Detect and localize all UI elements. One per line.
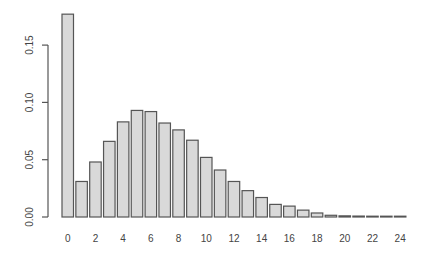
x-tick-label: 14 bbox=[256, 233, 268, 244]
x-tick-label: 8 bbox=[176, 233, 182, 244]
bar-24 bbox=[394, 216, 406, 217]
x-tick-label: 16 bbox=[284, 233, 296, 244]
x-tick-label: 0 bbox=[65, 233, 71, 244]
bar-19 bbox=[325, 215, 337, 217]
bar-16 bbox=[284, 206, 296, 217]
x-tick-label: 2 bbox=[93, 233, 99, 244]
bar-10 bbox=[201, 157, 213, 217]
bar-5 bbox=[131, 110, 143, 217]
bar-22 bbox=[367, 216, 379, 217]
chart-canvas: 0.000.050.100.15 024681012141618202224 bbox=[0, 0, 429, 254]
bar-9 bbox=[187, 140, 199, 217]
bar-3 bbox=[104, 141, 116, 217]
bar-1 bbox=[76, 181, 88, 217]
x-tick-label: 20 bbox=[339, 233, 351, 244]
bar-12 bbox=[228, 181, 240, 217]
bar-13 bbox=[242, 191, 254, 217]
y-axis: 0.000.050.100.15 bbox=[24, 35, 48, 227]
y-tick-label: 0.05 bbox=[24, 150, 35, 170]
y-tick-label: 0.15 bbox=[24, 35, 35, 55]
bar-chart: 0.000.050.100.15 024681012141618202224 bbox=[0, 0, 429, 254]
x-tick-label: 10 bbox=[201, 233, 213, 244]
x-tick-label: 22 bbox=[367, 233, 379, 244]
x-tick-label: 24 bbox=[395, 233, 407, 244]
bar-14 bbox=[256, 198, 268, 217]
bar-6 bbox=[145, 112, 157, 217]
bar-7 bbox=[159, 123, 171, 217]
bar-11 bbox=[214, 170, 226, 217]
x-tick-label: 6 bbox=[148, 233, 154, 244]
bar-2 bbox=[90, 162, 102, 217]
bar-18 bbox=[311, 213, 323, 217]
bar-15 bbox=[270, 204, 282, 217]
x-tick-label: 12 bbox=[228, 233, 240, 244]
x-axis-labels: 024681012141618202224 bbox=[65, 233, 406, 244]
bar-0 bbox=[62, 14, 74, 217]
x-tick-label: 4 bbox=[120, 233, 126, 244]
bar-8 bbox=[173, 130, 185, 217]
bar-4 bbox=[117, 122, 128, 217]
y-tick-label: 0.10 bbox=[24, 92, 35, 112]
bar-21 bbox=[353, 216, 365, 217]
bar-17 bbox=[297, 210, 309, 217]
y-tick-label: 0.00 bbox=[24, 207, 35, 227]
bar-20 bbox=[339, 216, 351, 217]
x-tick-label: 18 bbox=[311, 233, 323, 244]
bars bbox=[62, 14, 406, 217]
bar-23 bbox=[381, 216, 393, 217]
